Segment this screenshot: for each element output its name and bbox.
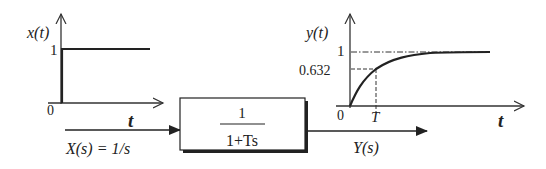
step-response-diagram: x(t) 1 0 t X(s) = 1/s 1 1+Ts Y(s) y(t) 1… — [0, 0, 546, 169]
tau-value-label: 0.632 — [299, 63, 331, 78]
final-value-label: 1 — [337, 43, 345, 59]
block-numerator: 1 — [238, 105, 246, 121]
exponential-response-curve — [350, 52, 490, 106]
input-xlabel: t — [128, 110, 134, 131]
output-origin-label: 0 — [337, 108, 344, 123]
input-ylabel: x(t) — [26, 24, 49, 42]
input-plot: x(t) 1 0 t — [26, 14, 163, 131]
transfer-function-block: 1 1+Ts — [180, 98, 308, 153]
time-constant-label: T — [371, 109, 381, 125]
input-level-label: 1 — [50, 42, 58, 58]
output-ylabel: y(t) — [304, 24, 328, 42]
output-transform-label: Y(s) — [353, 139, 379, 157]
unit-step-signal — [62, 49, 150, 103]
output-signal: Y(s) — [308, 131, 427, 157]
output-plot: y(t) 1 0.632 0 T t — [299, 14, 524, 131]
block-denominator: 1+Ts — [226, 132, 258, 149]
output-xlabel: t — [498, 110, 504, 131]
input-origin-label: 0 — [47, 103, 54, 118]
input-signal: X(s) = 1/s — [65, 130, 180, 158]
input-transform-label: X(s) = 1/s — [65, 140, 130, 158]
